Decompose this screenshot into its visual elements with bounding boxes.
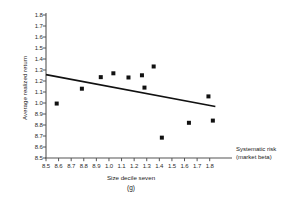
y-tick-label-4: 8.9 (29, 111, 43, 117)
data-point-6 (142, 86, 146, 90)
y-tick-label-13: 1.8 (29, 12, 43, 18)
y-tick-label-7: 1.2 (29, 78, 43, 84)
x-axis-title-below: Size decile seven (81, 174, 181, 181)
data-point-8 (160, 136, 164, 140)
y-tick-label-8: 1.3 (29, 67, 43, 73)
x-axis-title-line2: (market beta) (236, 154, 276, 162)
data-point-1 (80, 87, 84, 91)
y-tick-label-12: 1.7 (29, 23, 43, 29)
y-axis-title: Average realized return (22, 55, 28, 119)
data-point-10 (206, 94, 210, 98)
data-point-7 (152, 64, 156, 68)
y-tick-label-5: 1.0 (29, 100, 43, 106)
y-tick-label-1: 8.6 (29, 144, 43, 150)
data-point-3 (111, 71, 115, 75)
y-tick-label-3: 8.8 (29, 122, 43, 128)
y-tick-label-10: 1.5 (29, 45, 43, 51)
data-point-4 (126, 75, 130, 79)
fit-line (46, 75, 215, 107)
y-tick-label-0: 8.5 (29, 155, 43, 161)
x-tick-label-13: 1.8 (203, 163, 217, 169)
data-point-2 (99, 75, 103, 79)
data-point-11 (211, 119, 215, 123)
y-tick-label-2: 8.7 (29, 133, 43, 139)
x-axis-title-right: Systematic risk (market beta) (236, 146, 276, 161)
data-point-0 (55, 102, 59, 106)
chart-figure: Average realized return Size decile seve… (0, 0, 288, 198)
x-axis-title-line1: Systematic risk (236, 146, 276, 154)
panel-label: (g) (81, 184, 181, 191)
axes-group (43, 13, 232, 161)
fit-line-group (46, 75, 215, 107)
data-point-5 (140, 73, 144, 77)
data-point-9 (187, 121, 191, 125)
y-tick-label-9: 1.4 (29, 56, 43, 62)
y-tick-label-11: 1.6 (29, 34, 43, 40)
y-tick-label-6: 1.1 (29, 89, 43, 95)
